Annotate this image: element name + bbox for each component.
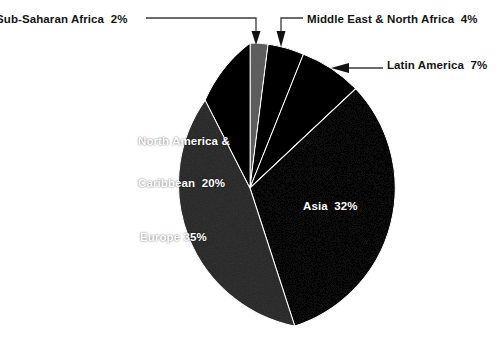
chart-canvas: North America & Caribbean 20% Asia 32% E… bbox=[0, 0, 502, 351]
slice-label-europe: Europe 35% bbox=[140, 230, 207, 244]
callout-label-sub-saharan-africa: Sub-Saharan Africa 2% bbox=[0, 12, 128, 26]
callout-label-middle-east-north-africa: Middle East & North Africa 4% bbox=[307, 12, 478, 26]
pie-chart bbox=[0, 0, 502, 351]
slice-label-north-america-line1: North America & bbox=[138, 134, 230, 148]
pie-chart-svg bbox=[0, 0, 502, 351]
slice-label-asia: Asia 32% bbox=[303, 199, 358, 213]
slice-label-north-america-caribbean: North America & Caribbean 20% bbox=[138, 106, 230, 218]
callout-label-latin-america: Latin America 7% bbox=[387, 58, 487, 72]
slice-label-north-america-line2: Caribbean 20% bbox=[138, 176, 230, 190]
